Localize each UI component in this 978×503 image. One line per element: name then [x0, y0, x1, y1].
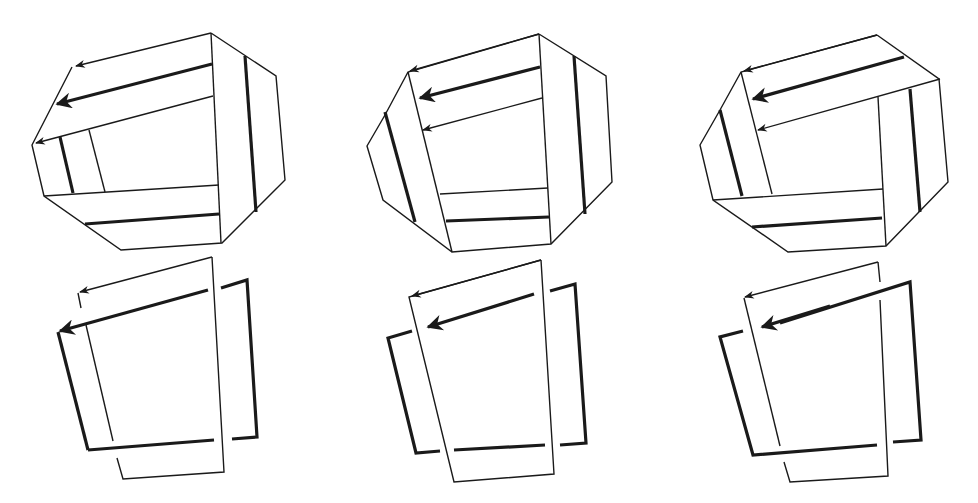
panel-top-2 [367, 34, 612, 252]
outline [700, 35, 948, 252]
thick-loop [550, 284, 586, 445]
arrow-thick [60, 290, 208, 331]
thick-loop [720, 331, 877, 455]
diagram-canvas [0, 0, 978, 503]
panel-bottom-1 [58, 257, 257, 479]
arrow-thin-top [76, 33, 211, 66]
arrow-thin-bottom [423, 98, 542, 130]
arrow-thin [745, 262, 878, 297]
arrow-thin [80, 257, 212, 292]
arrow-thick [762, 306, 830, 327]
panel-top-3 [700, 35, 948, 252]
thin-loop [784, 300, 888, 482]
panel-top-1 [32, 33, 285, 250]
thick-loop [221, 280, 257, 439]
panel-bottom-3 [720, 262, 921, 482]
arrow-thick [753, 57, 904, 99]
arrow-thin-top [410, 34, 539, 71]
panel-bottom-2 [388, 260, 586, 482]
arrow-thick [420, 67, 540, 98]
arrow-thin [412, 260, 541, 296]
arrow-thick [428, 294, 534, 327]
arrow-thick [57, 64, 212, 104]
arrow-thin-top [744, 35, 877, 71]
